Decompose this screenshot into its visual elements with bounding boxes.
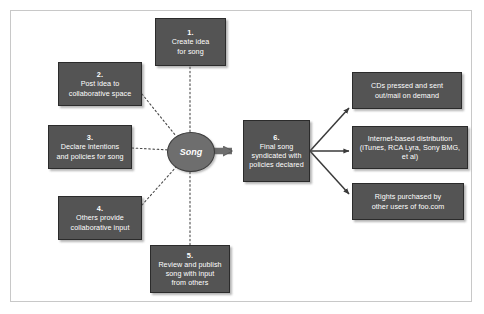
process-node-2-number: 2.: [97, 70, 103, 79]
channel-node-cds-label: CDs pressed and sent out/mail on demand: [371, 81, 443, 99]
channel-node-internet-label: Internet-based distribution (iTunes, RCA…: [360, 134, 460, 162]
channel-node-rights[interactable]: Rights purchased by other users of foo.c…: [352, 183, 464, 220]
process-node-5-number: 5.: [187, 251, 193, 260]
process-node-6-label: Final song syndicated with policies decl…: [249, 142, 303, 170]
process-node-1-number: 1.: [187, 28, 193, 37]
process-node-5[interactable]: 5. Review and publish song with input fr…: [150, 245, 230, 293]
diagram-canvas: 1. Create idea for song 2. Post idea to …: [0, 0, 484, 314]
process-node-6[interactable]: 6. Final song syndicated with policies d…: [243, 120, 310, 182]
channel-node-cds[interactable]: CDs pressed and sent out/mail on demand: [352, 72, 462, 109]
channel-node-internet[interactable]: Internet-based distribution (iTunes, RCA…: [352, 126, 468, 169]
process-node-1-label: Create idea for song: [172, 37, 210, 55]
process-node-1[interactable]: 1. Create idea for song: [155, 18, 226, 66]
process-node-3[interactable]: 3. Declare intentions and policies for s…: [48, 125, 132, 169]
process-node-4-number: 4.: [97, 204, 103, 213]
process-node-3-label: Declare intentions and policies for song: [57, 142, 124, 160]
process-node-5-label: Review and publish song with input from …: [158, 260, 221, 288]
process-node-2[interactable]: 2. Post idea to collaborative space: [58, 62, 142, 106]
process-node-3-number: 3.: [87, 133, 93, 142]
song-hub-node[interactable]: Song: [167, 132, 215, 172]
process-node-2-label: Post idea to collaborative space: [69, 79, 131, 97]
process-node-6-number: 6.: [273, 133, 279, 142]
channel-node-rights-label: Rights purchased by other users of foo.c…: [372, 192, 445, 210]
process-node-4[interactable]: 4. Others provide collaborative input: [58, 196, 142, 240]
process-node-4-label: Others provide collaborative input: [71, 213, 130, 231]
song-hub-label: Song: [180, 147, 203, 157]
